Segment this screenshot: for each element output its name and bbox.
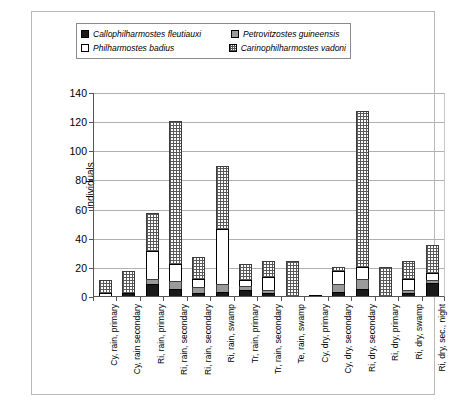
x-tick-mark [257,297,258,301]
legend-row: Philharmostes badius Carinophilharmostes… [81,41,346,55]
stacked-bar[interactable] [309,295,322,296]
bar-segment [169,264,182,281]
stacked-bar[interactable] [332,267,345,296]
x-axis-labels: Cy, rain, primaryCy, rain secondaryRi, r… [93,302,445,402]
bar-slot [234,93,257,296]
x-label-slot: Cy, dry, primary [304,302,327,402]
bar-segment [169,121,182,264]
bar-segment [216,292,229,296]
stacked-bar[interactable] [286,261,299,296]
y-tick-label: 80 [75,174,87,186]
bar-segment [262,277,275,290]
stacked-bar[interactable] [262,261,275,296]
bar-slot [94,93,117,296]
stacked-bar[interactable] [192,257,205,296]
bar-segment [402,293,415,296]
bar-segment [426,273,439,280]
bar-slot [327,93,350,296]
x-tick-mark [234,297,235,301]
bar-slot [351,93,374,296]
x-label-slot: Ri, rain, primary [140,302,163,402]
stacked-bar[interactable] [402,261,415,296]
bar-segment [99,293,112,296]
legend-label: Carinophilharmostes vadoni [241,43,346,53]
y-tick-label: 40 [75,233,87,245]
solid-gray-swatch-icon [231,30,239,38]
bar-slot [397,93,420,296]
bar-segment [146,284,159,296]
bar-segment [332,292,345,296]
stacked-bar[interactable] [426,245,439,296]
bar-segment [239,290,252,296]
bar-segment [426,245,439,273]
x-tick-mark [304,297,305,301]
bar-slot [117,93,140,296]
x-label-slot: Tr, rain, secondary [257,302,280,402]
y-tick-mark [89,210,93,211]
bar-segment [239,264,252,280]
stacked-bar[interactable] [239,264,252,296]
bar-slot [421,93,444,296]
bar-segment [356,267,369,279]
bar-segment [332,284,345,291]
legend-label: Philharmostes badius [93,43,174,53]
x-label-slot: Cy, rain, primary [93,302,116,402]
stacked-bar[interactable] [379,267,392,296]
x-label-slot: Ri, rain, secondary [163,302,186,402]
x-tick-mark [93,297,94,301]
plot-area: 140120100806040200 [93,93,445,297]
stacked-bar[interactable] [122,271,135,296]
bar-segment [262,261,275,277]
x-label-slot: Ri, dry, secondary [351,302,374,402]
bar-segment [216,284,229,291]
x-tick-mark [398,297,399,301]
y-tick-mark [89,122,93,123]
bar-segment [356,279,369,289]
bar-segment [192,279,205,288]
bar-segment [99,280,112,293]
y-tick-mark [89,93,93,94]
stacked-bar[interactable] [216,166,229,296]
bar-segment [146,213,159,251]
x-tick-mark [444,297,445,301]
legend-row: Callophilharmostes fleutiauxi Petrovitzo… [81,27,346,41]
bar-segment [169,289,182,296]
legend-label: Callophilharmostes fleutiauxi [93,29,201,39]
x-label-slot: Te, rain, swamp [281,302,304,402]
solid-black-swatch-icon [81,30,89,38]
x-label-slot: Tr, rain, primary [234,302,257,402]
x-label-slot: Ri, dry, primary [375,302,398,402]
legend-entry: Carinophilharmostes vadoni [229,43,346,53]
x-label-slot: Ri, dry, swamp [398,302,421,402]
bar-segment [426,283,439,296]
chart-figure: Callophilharmostes fleutiauxi Petrovitzo… [31,11,435,395]
bar-segment [309,295,322,296]
bar-slot [164,93,187,296]
x-tick-mark [116,297,117,301]
y-tick-label: 0 [81,291,87,303]
y-tick-label: 60 [75,204,87,216]
x-tick-mark [210,297,211,301]
legend-label: Petrovitzostes guineensis [243,29,339,39]
x-tick-mark [422,297,423,301]
x-tick-mark [163,297,164,301]
y-tick-label: 120 [69,116,87,128]
bar-slot [187,93,210,296]
legend-entry: Petrovitzostes guineensis [231,29,339,39]
crosshatch-swatch-icon [229,44,237,52]
x-label-slot: Ri, rain, secondary [187,302,210,402]
bar-segment [332,271,345,284]
stacked-bar[interactable] [99,280,112,296]
stacked-bar[interactable] [146,213,159,296]
stacked-bar[interactable] [169,121,182,296]
chart-legend: Callophilharmostes fleutiauxi Petrovitzo… [76,23,351,59]
stacked-bar[interactable] [356,111,369,296]
y-tick-label: 100 [69,145,87,157]
bar-segment [262,293,275,296]
legend-entry: Philharmostes badius [81,43,229,53]
bar-segment [356,289,369,296]
x-tick-mark [375,297,376,301]
x-tick-mark [351,297,352,301]
bar-slot [304,93,327,296]
bar-segment [286,261,299,296]
